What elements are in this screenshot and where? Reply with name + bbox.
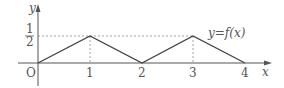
y-tick-numerator: 1 bbox=[26, 22, 34, 36]
x-tick-2: 2 bbox=[138, 66, 146, 80]
x-tick-4: 4 bbox=[241, 66, 249, 80]
x-axis-label: x bbox=[262, 65, 269, 79]
x-tick-1: 1 bbox=[86, 66, 94, 80]
curve-label: y=f(x) bbox=[207, 26, 246, 40]
x-tick-3: 3 bbox=[189, 66, 197, 80]
y-tick-denominator: 2 bbox=[26, 35, 34, 49]
y-axis-arrow-icon bbox=[36, 4, 41, 12]
y-axis-label: y bbox=[28, 1, 36, 15]
function-curve bbox=[38, 36, 245, 63]
origin-label: O bbox=[26, 66, 36, 80]
function-graph: y x O 1 2 1 2 3 4 y=f(x) bbox=[0, 0, 284, 88]
